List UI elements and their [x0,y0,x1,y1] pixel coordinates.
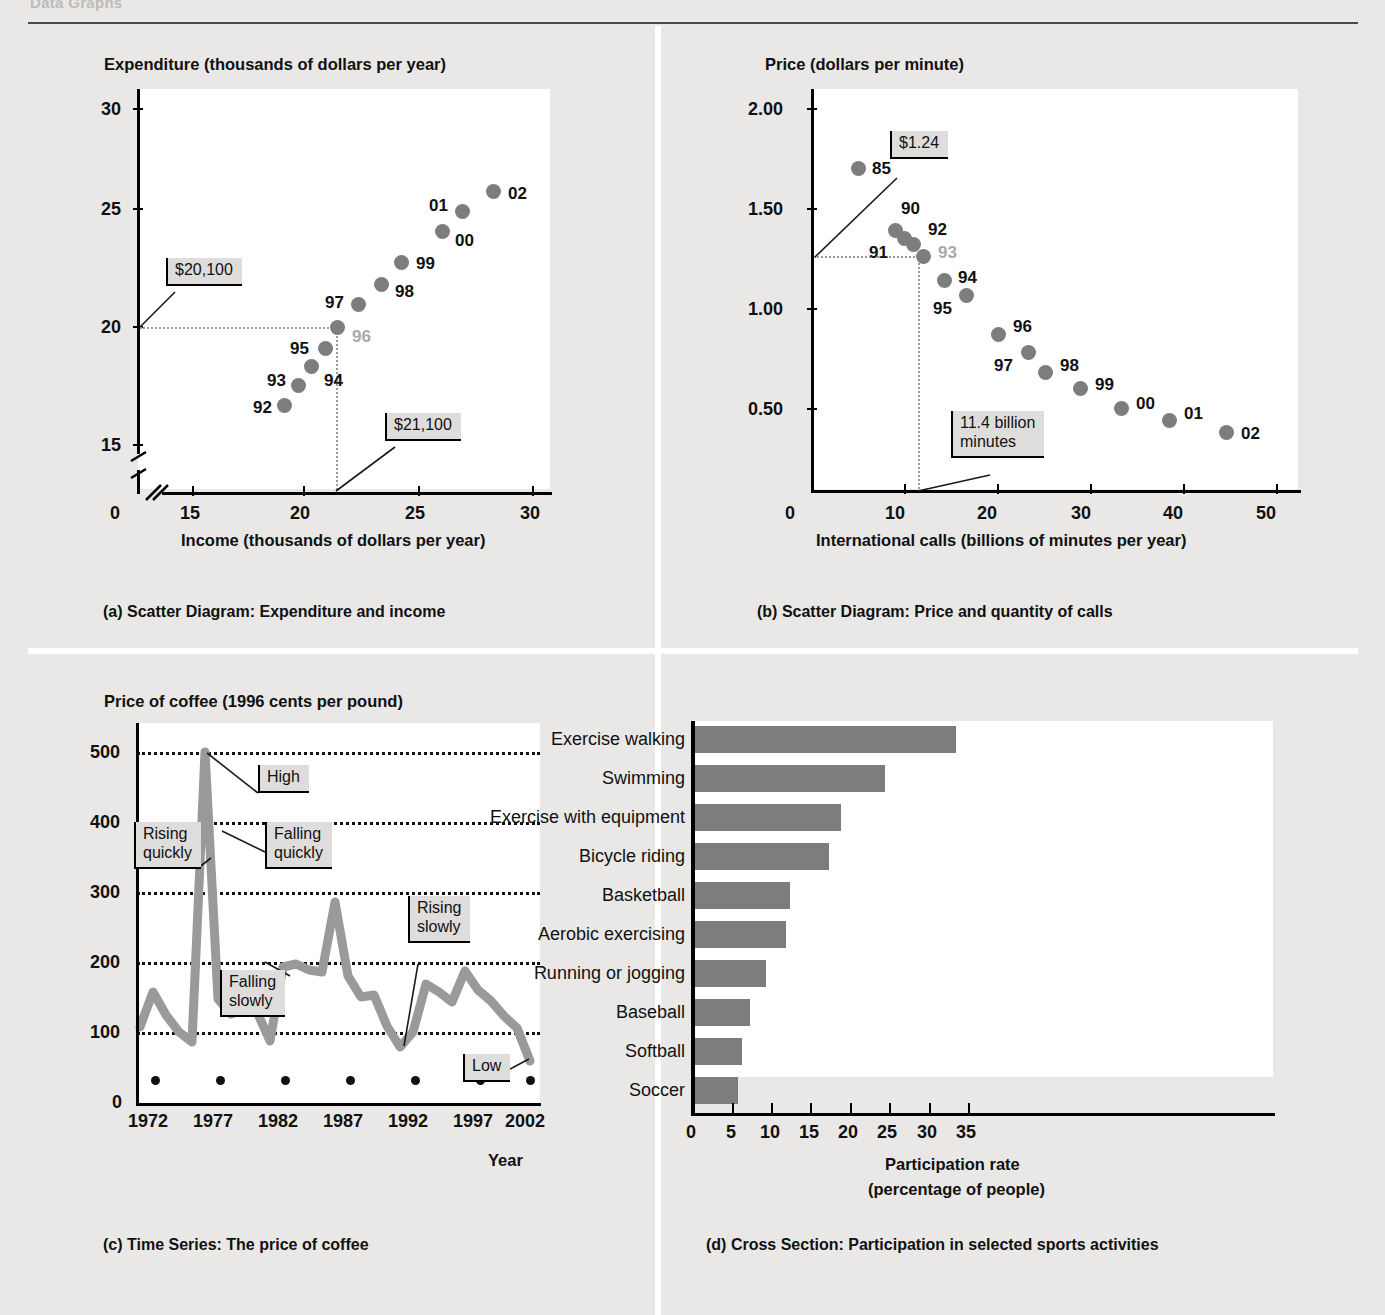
panel-d-xtick-35: 35 [956,1122,976,1143]
panel-d-xtick-mark-35 [968,1103,970,1113]
panel-d-bar-exercise-walking [695,726,956,753]
panel-d-category-label-baseball: Baseball [413,1002,685,1023]
panel-d-category-label-exercise-with-equipment: Exercise with equipment [413,807,685,828]
panel-d-bar-soccer [695,1077,738,1104]
panel-d-category-label-running-or-jogging: Running or jogging [413,963,685,984]
panel-d-xtick-mark-30 [929,1103,931,1113]
panel-d-xtick-25: 25 [877,1122,897,1143]
panel-c-annotation-rising-quickly-line2: quickly [143,844,192,863]
panel-c-annotation-falling-slowly: Falling slowly [220,970,285,1017]
panel-c-annotation-falling-quickly: Falling quickly [265,822,332,869]
panel-d-category-label-bicycle-riding: Bicycle riding [413,846,685,867]
panel-c-annotation-falling-quickly-line1: Falling [274,825,323,844]
panel-d-bar-aerobic-exercising [695,921,786,948]
panel-c-annotation-rising-quickly: Rising quickly [134,822,201,869]
panel-d-x-axis [691,1113,1275,1116]
panel-c-caption: (c) Time Series: The price of coffee [103,1236,369,1254]
panel-c-annotation-rising-quickly-line1: Rising [143,825,192,844]
panel-d-xtick-5: 5 [726,1122,736,1143]
panel-d-bar-bicycle-riding [695,843,829,870]
panel-d-bar-basketball [695,882,790,909]
panel-d-bar-exercise-with-equipment [695,804,841,831]
panel-c-x-axis-title: Year [488,1151,523,1170]
panel-d-xtick-mark-15 [810,1103,812,1113]
panel-c-annotation-falling-slowly-line2: slowly [229,992,276,1011]
panel-d-category-label-aerobic-exercising: Aerobic exercising [413,924,685,945]
panel-d-category-label-basketball: Basketball [413,885,685,906]
panel-d-x-axis-title-line1: Participation rate [885,1155,1020,1174]
panel-c-annotation-leaders [0,0,1385,1315]
panel-d-bar-swimming [695,765,885,792]
panel-d-xtick-10: 10 [760,1122,780,1143]
panel-c-annotation-high: High [258,765,309,793]
panel-d-xtick-mark-5 [732,1103,734,1113]
panel-d-xtick-20: 20 [838,1122,858,1143]
panel-d-xtick-15: 15 [799,1122,819,1143]
panel-d-bar-baseball [695,999,750,1026]
panel-d-x-axis-title-line2: (percentage of people) [868,1180,1045,1199]
panel-d-xtick-30: 30 [917,1122,937,1143]
panel-d-y-axis [691,721,695,1113]
panel-d-bar-running-or-jogging [695,960,766,987]
panel-d-xtick-mark-25 [889,1103,891,1113]
panel-d-category-label-softball: Softball [413,1041,685,1062]
panel-c-annotation-falling-quickly-line2: quickly [274,844,323,863]
panel-d-bar-softball [695,1038,742,1065]
panel-c-annotation-falling-slowly-line1: Falling [229,973,276,992]
panel-d-category-label-swimming: Swimming [413,768,685,789]
panel-d-category-label-exercise-walking: Exercise walking [413,729,685,750]
panel-d-xtick-0: 0 [686,1122,696,1143]
panel-d-category-label-soccer: Soccer [413,1080,685,1101]
panel-d-xtick-mark-20 [850,1103,852,1113]
panel-d-xtick-mark-10 [771,1103,773,1113]
panel-d-caption: (d) Cross Section: Participation in sele… [706,1236,1159,1254]
